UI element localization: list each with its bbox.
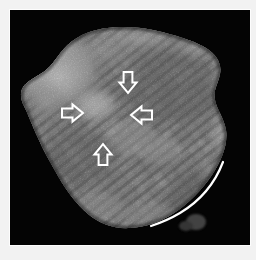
figure-frame [9,9,251,246]
scan-image [10,10,250,245]
scan-canvas [10,10,250,245]
ultrasound-scan-figure [0,0,256,260]
